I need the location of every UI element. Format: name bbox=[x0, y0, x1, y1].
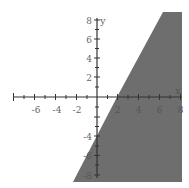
x-tick-label: 6 bbox=[157, 105, 163, 115]
x-tick-label: -6 bbox=[32, 105, 41, 115]
y-tick-label: -8 bbox=[83, 171, 92, 181]
y-tick-label: 8 bbox=[86, 16, 92, 26]
y-tick-label: -6 bbox=[83, 151, 92, 161]
y-tick-label: 6 bbox=[86, 35, 92, 45]
x-tick-label: 2 bbox=[115, 105, 121, 115]
y-tick-label: 2 bbox=[86, 73, 92, 83]
x-tick-label: 4 bbox=[136, 105, 142, 115]
inequality-graph: -6 -4 -2 2 4 6 8 8 6 4 2 -4 -6 -8 y x bbox=[0, 0, 189, 188]
y-tick-label: 4 bbox=[86, 54, 92, 64]
x-tick-label: -2 bbox=[73, 105, 82, 115]
x-axis-label: x bbox=[175, 85, 181, 96]
x-tick-label: 8 bbox=[178, 105, 184, 115]
y-axis-label: y bbox=[99, 15, 106, 26]
x-tick-label: -4 bbox=[53, 105, 62, 115]
y-tick-label: -4 bbox=[83, 132, 92, 142]
